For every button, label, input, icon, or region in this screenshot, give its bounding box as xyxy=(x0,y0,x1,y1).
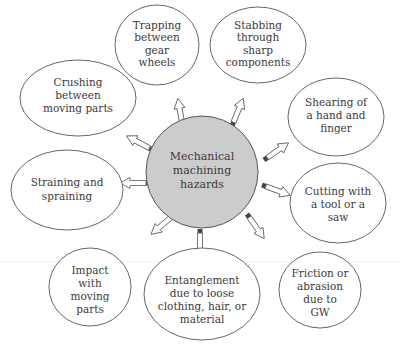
node-text: a hand and xyxy=(306,109,365,121)
node-text: GW xyxy=(310,306,329,318)
arrow-to-shearing-icon xyxy=(261,138,292,164)
node-text: Straining and xyxy=(31,176,104,188)
node-text: Cutting with xyxy=(305,185,372,197)
node-text: through xyxy=(237,31,280,43)
center-line-1: Mechanical xyxy=(170,150,235,163)
node-entanglement: Entanglement due to loose clothing, hair… xyxy=(144,248,260,340)
node-text: saw xyxy=(328,211,349,223)
node-crushing: Crushing between moving parts xyxy=(20,60,136,136)
node-text: moving xyxy=(70,290,109,302)
node-straining: Straining and spraining xyxy=(11,150,123,230)
node-text: Crushing xyxy=(54,76,103,88)
node-text: sharp xyxy=(243,44,273,56)
node-text: components xyxy=(226,56,291,68)
node-text: due to loose xyxy=(170,287,235,299)
node-text: spraining xyxy=(42,190,93,202)
node-text: between xyxy=(55,89,101,101)
node-text: clothing, hair, or xyxy=(158,300,247,312)
node-text: moving parts xyxy=(43,102,113,114)
node-text: a tool or a xyxy=(311,198,365,210)
hazards-diagram: Mechanical machining hazards Trapping be… xyxy=(0,0,400,347)
node-text: Shearing of xyxy=(305,96,368,108)
node-text: Stabbing xyxy=(234,19,282,31)
node-text: gear xyxy=(145,44,170,56)
node-impact: Impact with moving parts xyxy=(49,248,131,326)
node-text: Impact xyxy=(71,264,109,276)
node-trapping: Trapping between gear wheels xyxy=(115,5,199,85)
center-line-2: machining xyxy=(173,164,231,177)
node-text: Trapping xyxy=(133,19,182,31)
center-hub: Mechanical machining hazards xyxy=(146,116,258,228)
arrow-to-straining-icon xyxy=(120,178,150,189)
node-text: Friction or xyxy=(292,267,350,279)
node-text: with xyxy=(78,277,102,289)
node-text: between xyxy=(134,31,180,43)
node-text: Entanglement xyxy=(164,274,240,286)
node-text: due to xyxy=(303,293,337,305)
node-text: wheels xyxy=(139,56,176,68)
node-friction: Friction or abrasion due to GW xyxy=(279,252,361,328)
node-text: abrasion xyxy=(297,280,343,292)
arrow-to-friction-icon xyxy=(242,211,268,242)
node-shearing: Shearing of a hand and finger xyxy=(288,78,384,156)
node-stabbing: Stabbing through sharp components xyxy=(210,7,306,83)
arrow-to-cutting-icon xyxy=(260,180,292,201)
node-cutting: Cutting with a tool or a saw xyxy=(290,163,386,243)
center-line-3: hazards xyxy=(180,178,224,191)
node-text: material xyxy=(180,313,225,325)
node-text: finger xyxy=(320,122,353,134)
node-text: parts xyxy=(76,303,104,315)
